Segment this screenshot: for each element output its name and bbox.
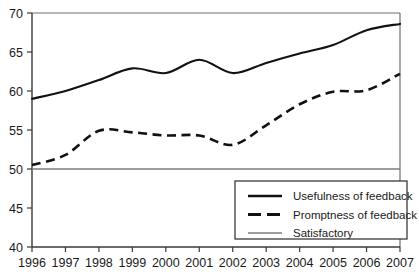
y-tick-label: 45 [9, 202, 23, 216]
x-tick-label: 2005 [319, 256, 347, 270]
chart-legend: Usefulness of feedbackPromptness of feed… [235, 181, 417, 239]
y-tick-label: 65 [9, 46, 23, 60]
line-chart: 40455055606570 1996199719981999200020012… [0, 0, 419, 277]
x-tick-label: 2004 [286, 256, 314, 270]
x-axis-ticks: 1996199719981999200020012002200320042005… [18, 247, 414, 270]
series-group [32, 24, 400, 169]
y-tick-label: 55 [9, 124, 23, 138]
legend-label: Usefulness of feedback [293, 190, 413, 202]
x-tick-label: 2003 [252, 256, 280, 270]
x-tick-label: 2001 [185, 256, 213, 270]
x-tick-label: 2002 [219, 256, 247, 270]
x-tick-label: 2006 [353, 256, 381, 270]
x-tick-label: 1998 [85, 256, 113, 270]
legend-label: Satisfactory [293, 227, 353, 239]
y-tick-label: 40 [9, 241, 23, 255]
legend-label: Promptness of feedback [293, 209, 417, 221]
y-tick-label: 50 [9, 163, 23, 177]
chart-canvas: 40455055606570 1996199719981999200020012… [0, 0, 419, 277]
series-line-promptness [32, 74, 400, 165]
y-tick-label: 70 [9, 7, 23, 21]
x-tick-label: 2007 [386, 256, 414, 270]
x-tick-label: 2000 [152, 256, 180, 270]
series-line-usefulness [32, 24, 400, 99]
x-tick-label: 1997 [52, 256, 80, 270]
x-tick-label: 1996 [18, 256, 46, 270]
x-tick-label: 1999 [118, 256, 146, 270]
y-axis-ticks: 40455055606570 [9, 7, 32, 255]
y-tick-label: 60 [9, 85, 23, 99]
